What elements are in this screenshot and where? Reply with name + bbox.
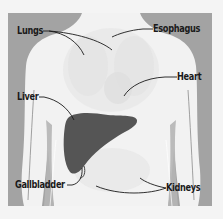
label-heart: Heart (177, 71, 201, 83)
label-kidneys: Kidneys (166, 182, 200, 194)
anatomy-diagram: Lungs Esophagus Heart Liver Gallbladder … (0, 0, 223, 219)
left-lung-ghost (68, 36, 108, 96)
heart-ghost (104, 72, 132, 104)
label-liver: Liver (17, 91, 38, 103)
label-esophagus: Esophagus (153, 23, 200, 35)
label-lungs: Lungs (17, 25, 43, 37)
label-gallbladder: Gallbladder (15, 179, 65, 191)
